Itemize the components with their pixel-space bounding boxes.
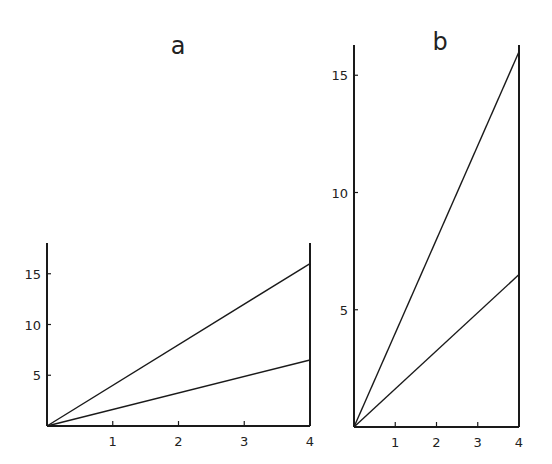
series-line-upper bbox=[47, 264, 310, 426]
figure: a 123451015 b 123451015 bbox=[0, 0, 552, 464]
y-tick-label: 15 bbox=[331, 68, 348, 83]
x-tick-label: 3 bbox=[474, 435, 482, 450]
series-line-upper bbox=[354, 52, 519, 427]
chart-a: a 123451015 bbox=[24, 32, 314, 449]
chart-a-title: a bbox=[171, 32, 186, 60]
chart-a-axes: 123451015 bbox=[24, 243, 314, 449]
chart-b-title: b bbox=[432, 28, 447, 56]
x-tick-label: 1 bbox=[109, 434, 117, 449]
y-tick-label: 10 bbox=[331, 186, 348, 201]
y-tick-label: 5 bbox=[340, 303, 348, 318]
x-tick-label: 4 bbox=[515, 435, 523, 450]
x-tick-label: 3 bbox=[240, 434, 248, 449]
y-tick-label: 10 bbox=[24, 318, 41, 333]
chart-b-axes: 123451015 bbox=[331, 45, 523, 450]
x-tick-label: 4 bbox=[306, 434, 314, 449]
series-line-lower bbox=[354, 275, 519, 427]
series-line-lower bbox=[47, 360, 310, 426]
x-tick-label: 2 bbox=[432, 435, 440, 450]
chart-a-series bbox=[47, 264, 310, 426]
y-tick-label: 15 bbox=[24, 267, 41, 282]
x-tick-label: 2 bbox=[174, 434, 182, 449]
x-tick-label: 1 bbox=[391, 435, 399, 450]
y-tick-label: 5 bbox=[33, 368, 41, 383]
chart-b-series bbox=[354, 52, 519, 427]
chart-b: b 123451015 bbox=[331, 28, 523, 450]
